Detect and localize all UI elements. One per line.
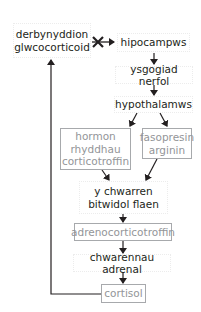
inhibit-arrow [92,37,114,47]
node-label: chwarennau adrenal [74,251,170,276]
node-arginine-vasopressin: fasopresin arginin [142,128,192,159]
node-label: hypothalamws [115,98,192,111]
arrow-hypothalamus-avp [160,113,167,126]
node-adrenal-glands: chwarennau adrenal [73,254,171,272]
node-glucocorticoid-receptors: derbynyddion glwcocorticoid [13,23,91,58]
node-label: ysgogiad nerfol [116,63,192,88]
node-hippocampus: hipocampws [117,33,190,52]
node-crh: hormon rhyddhau corticotroffin [60,128,131,170]
node-label: fasopresin arginin [140,131,194,156]
node-anterior-pituitary: y chwarren bitwidol flaen [79,181,168,214]
node-label: derbynyddion glwcocorticoid [14,28,90,53]
node-nerve-stimulus: ysgogiad nerfol [115,66,193,84]
node-cortisol: cortisol [101,284,146,303]
node-hypothalamus: hypothalamws [114,96,193,113]
arrow-avp-pituitary [146,159,157,180]
node-label: cortisol [104,287,142,300]
node-label: hipocampws [121,36,187,49]
node-label: adrenocorticotroffin [71,226,175,239]
arrow-hypothalamus-crh [130,113,137,126]
node-acth: adrenocorticotroffin [74,223,172,241]
arrow-crh-pituitary [102,170,109,180]
node-label: y chwarren bitwidol flaen [86,185,161,210]
node-label: hormon rhyddhau corticotroffin [62,130,129,168]
